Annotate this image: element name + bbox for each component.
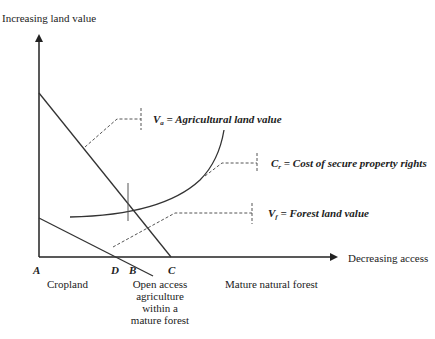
cr-curve [70, 130, 224, 217]
va-leader [85, 119, 141, 147]
cr-text: = Cost of secure property rights [281, 157, 427, 169]
cr-label: Cr = Cost of secure property rights [271, 157, 427, 173]
va-label: Va = Agricultural land value [153, 113, 282, 129]
x-axis-label: Decreasing access [348, 252, 428, 264]
zone-mature-forest: Mature natural forest [225, 278, 318, 290]
point-a: A [33, 264, 40, 276]
point-d: D [111, 264, 119, 276]
point-b: B [129, 264, 136, 276]
vf-text: = Forest land value [278, 207, 369, 219]
point-c: C [168, 264, 175, 276]
va-text: = Agricultural land value [164, 113, 282, 125]
vf-label: Vf = Forest land value [268, 207, 369, 223]
zone-cropland: Cropland [47, 278, 88, 290]
zone-open-access: Open access agriculture within a mature … [126, 278, 194, 326]
y-axis-label: Increasing land value [2, 12, 96, 24]
vf-leader [113, 213, 252, 247]
va-line [39, 93, 171, 257]
cr-leader [205, 163, 257, 176]
